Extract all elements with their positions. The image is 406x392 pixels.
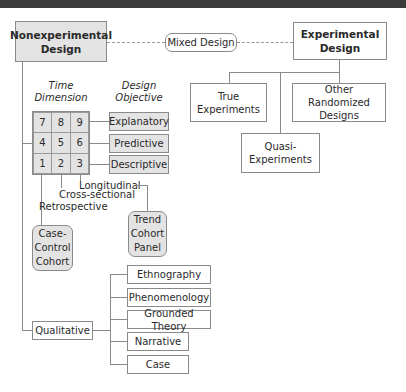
connector (22, 330, 32, 331)
trend-cohort-panel-box: Trend Cohort Panel (128, 211, 167, 257)
connector (61, 175, 62, 188)
box-label: Narrative (135, 335, 182, 348)
heading-line: Time (32, 80, 90, 92)
box-label: Experimental (301, 27, 380, 41)
box-label: Grounded Theory (128, 307, 210, 333)
heading-line: Objective (109, 92, 169, 104)
box-label: Descriptive (111, 158, 168, 171)
case-control-cohort-box: Case- Control Cohort (32, 225, 73, 271)
box-label: Trend (134, 213, 161, 227)
box-label: Phenomenology (129, 291, 210, 304)
connector (110, 274, 127, 275)
dashed-connector-left (107, 42, 165, 43)
time-objective-grid: 7 8 9 4 5 6 1 2 3 (32, 111, 90, 175)
box-label: Case (146, 358, 170, 371)
box-label: Ethnography (137, 268, 201, 281)
connector (110, 341, 127, 342)
experimental-design-box: Experimental Design (293, 22, 387, 60)
grid-cell: 4 (33, 132, 53, 154)
connector (90, 164, 109, 165)
objective-predictive-box: Predictive (109, 134, 169, 153)
objective-explanatory-box: Explanatory (109, 112, 169, 131)
header-bar (0, 0, 406, 8)
box-label: Experiments (197, 103, 260, 116)
grid-cell: 7 (33, 112, 53, 134)
grounded-theory-box: Grounded Theory (127, 310, 211, 329)
connector (339, 60, 340, 72)
connector (229, 72, 340, 73)
mixed-design-box: Mixed Design (165, 33, 237, 52)
other-randomized-designs-box: Other Randomized Designs (292, 83, 386, 122)
connector (90, 121, 109, 122)
grid-cell: 2 (51, 153, 71, 175)
nonexperimental-design-box: Nonexperimental Design (15, 21, 107, 62)
case-box: Case (127, 355, 189, 374)
box-label: Design (41, 42, 82, 56)
box-label: Design (320, 41, 361, 55)
box-label: True (218, 90, 239, 103)
box-label: Experiments (249, 153, 312, 166)
narrative-box: Narrative (127, 332, 189, 351)
connector (280, 72, 281, 133)
ethnography-box: Ethnography (127, 265, 211, 284)
box-label: Designs (319, 109, 359, 122)
connector (41, 175, 42, 225)
connector (90, 143, 109, 144)
true-experiments-box: True Experiments (190, 83, 267, 122)
connector (22, 62, 23, 331)
box-label: Other Randomized (293, 83, 385, 109)
box-label: Predictive (114, 137, 163, 150)
grid-cell: 1 (33, 153, 53, 175)
box-label: Nonexperimental (10, 28, 112, 42)
connector (110, 364, 127, 365)
box-label: Mixed Design (167, 36, 234, 49)
connector (93, 330, 110, 331)
box-label: Control (34, 241, 70, 255)
cross-sectional-label: Cross-sectional (59, 189, 135, 201)
connector (339, 72, 340, 83)
heading-line: Dimension (32, 92, 90, 104)
connector (229, 72, 230, 83)
box-label: Cohort (131, 227, 165, 241)
box-label: Case- (38, 227, 66, 241)
objective-descriptive-box: Descriptive (109, 155, 169, 174)
quasi-experiments-box: Quasi- Experiments (241, 133, 320, 173)
heading-line: Design (109, 80, 169, 92)
qualitative-box: Qualitative (32, 321, 93, 340)
box-label: Panel (134, 241, 161, 255)
retrospective-label: Retrospective (39, 201, 108, 213)
time-dimension-heading: Time Dimension (32, 80, 90, 104)
connector (147, 185, 148, 211)
grid-cell: 8 (51, 112, 71, 134)
design-objective-heading: Design Objective (109, 80, 169, 104)
box-label: Explanatory (109, 115, 169, 128)
grid-cell: 5 (51, 132, 71, 154)
box-label: Cohort (36, 255, 70, 269)
grid-cell: 3 (70, 153, 90, 175)
grid-cell: 6 (70, 132, 90, 154)
phenomenology-box: Phenomenology (127, 288, 211, 307)
box-label: Qualitative (35, 324, 90, 337)
connector (110, 319, 127, 320)
box-label: Quasi- (265, 140, 297, 153)
connector (110, 297, 127, 298)
dashed-connector-right (237, 42, 293, 43)
connector (22, 143, 32, 144)
grid-cell: 9 (70, 112, 90, 134)
